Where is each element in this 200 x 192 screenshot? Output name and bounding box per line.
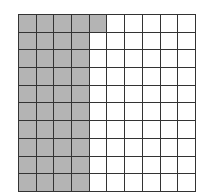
empty-cell [143,157,161,175]
shaded-cell [19,33,37,51]
shaded-cell [72,68,90,86]
empty-cell [107,68,125,86]
shaded-cell [37,86,55,104]
empty-cell [178,121,196,139]
shaded-cell [72,174,90,192]
empty-cell [178,103,196,121]
empty-cell [178,50,196,68]
shaded-cell [54,103,72,121]
shaded-cell [54,50,72,68]
empty-cell [178,157,196,175]
shaded-cell [54,121,72,139]
empty-cell [107,121,125,139]
shaded-cell [19,50,37,68]
empty-cell [125,157,143,175]
empty-cell [161,174,179,192]
empty-cell [161,139,179,157]
empty-cell [125,139,143,157]
empty-cell [161,103,179,121]
shaded-cell [72,103,90,121]
empty-cell [125,15,143,33]
empty-cell [107,157,125,175]
empty-cell [143,50,161,68]
empty-cell [90,103,108,121]
shaded-cell [72,15,90,33]
empty-cell [107,33,125,51]
empty-cell [125,33,143,51]
shaded-cell [54,86,72,104]
shaded-cell [19,174,37,192]
shaded-cell [54,157,72,175]
empty-cell [178,86,196,104]
empty-cell [125,86,143,104]
shaded-cell [72,86,90,104]
empty-cell [107,139,125,157]
empty-cell [143,15,161,33]
empty-cell [178,15,196,33]
empty-cell [161,15,179,33]
shaded-cell [37,174,55,192]
empty-cell [90,157,108,175]
empty-cell [143,68,161,86]
shaded-cell [37,103,55,121]
shaded-cell [72,50,90,68]
empty-cell [107,103,125,121]
empty-cell [90,50,108,68]
empty-cell [125,68,143,86]
shaded-cell [19,157,37,175]
shaded-cell [54,33,72,51]
shaded-cell [19,86,37,104]
empty-cell [143,33,161,51]
shaded-cell [72,157,90,175]
shaded-cell [72,33,90,51]
shaded-cell [19,103,37,121]
empty-cell [125,50,143,68]
empty-cell [161,33,179,51]
empty-cell [161,50,179,68]
empty-cell [178,174,196,192]
empty-cell [125,174,143,192]
empty-cell [143,86,161,104]
shaded-cell [72,139,90,157]
shaded-cell [37,68,55,86]
shaded-cell [37,157,55,175]
shaded-cell [90,15,108,33]
empty-cell [107,174,125,192]
shaded-cell [54,68,72,86]
empty-cell [125,103,143,121]
empty-cell [161,121,179,139]
empty-cell [125,121,143,139]
shaded-cell [72,121,90,139]
empty-cell [90,139,108,157]
empty-cell [161,86,179,104]
empty-cell [107,15,125,33]
empty-cell [90,33,108,51]
shaded-cell [54,174,72,192]
empty-cell [90,68,108,86]
empty-cell [178,68,196,86]
shaded-cell [37,139,55,157]
shaded-cell [37,121,55,139]
shaded-cell [37,50,55,68]
shaded-cell [54,139,72,157]
empty-cell [161,68,179,86]
empty-cell [143,121,161,139]
empty-cell [178,139,196,157]
empty-cell [178,33,196,51]
empty-cell [107,86,125,104]
shaded-cell [54,15,72,33]
empty-cell [90,121,108,139]
shaded-cell [19,15,37,33]
empty-cell [143,174,161,192]
shaded-cell [19,121,37,139]
shaded-cell [37,33,55,51]
shaded-cell [19,68,37,86]
empty-cell [161,157,179,175]
empty-cell [143,139,161,157]
empty-cell [90,86,108,104]
hundred-grid [18,14,196,192]
shaded-cell [19,139,37,157]
empty-cell [107,50,125,68]
empty-cell [143,103,161,121]
shaded-cell [37,15,55,33]
